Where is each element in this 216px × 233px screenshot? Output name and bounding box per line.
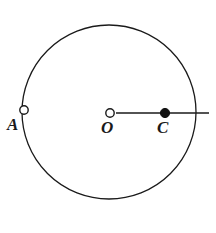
point-marker-o — [106, 109, 114, 117]
point-marker-c — [160, 108, 169, 117]
diagram-canvas — [0, 0, 216, 233]
point-marker-a — [20, 106, 28, 114]
point-label-o: O — [101, 119, 113, 136]
geometry-diagram: A O C — [0, 0, 216, 233]
point-label-c: C — [157, 119, 168, 136]
point-label-a: A — [7, 116, 18, 133]
